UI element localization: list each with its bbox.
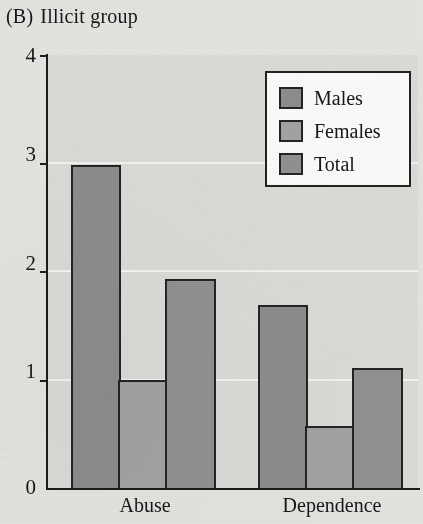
chart-legend: Males Females Total <box>265 71 411 187</box>
legend-swatch-total-icon <box>279 153 303 175</box>
y-tick-label-0: 0 <box>0 477 36 498</box>
y-tick-label-3: 3 <box>0 144 36 165</box>
bar-dependence-females[interactable] <box>305 426 355 488</box>
legend-item-total[interactable]: Total <box>279 147 409 180</box>
legend-swatch-females-icon <box>279 120 303 142</box>
y-tick-label-1: 1 <box>0 361 36 382</box>
panel-label: (B) <box>6 5 33 27</box>
y-tick-label-4: 4 <box>0 45 36 66</box>
x-tick-label-dependence: Dependence <box>262 494 402 516</box>
legend-swatch-males-icon <box>279 87 303 109</box>
x-tick-label-abuse: Abuse <box>95 494 195 516</box>
bar-abuse-females[interactable] <box>118 380 168 488</box>
bar-abuse-males[interactable] <box>71 165 121 488</box>
bar-dependence-total[interactable] <box>352 368 403 488</box>
y-axis-line <box>46 54 48 490</box>
legend-item-females[interactable]: Females <box>279 114 409 147</box>
bar-abuse-total[interactable] <box>165 279 216 488</box>
panel-title-text: Illicit group <box>40 5 138 27</box>
figure-panel-b: (B)Illicit group 4 3 2 1 0 Males Females <box>0 0 423 524</box>
legend-label-total: Total <box>314 154 355 174</box>
x-axis-line <box>46 488 420 490</box>
page-title: (B)Illicit group <box>6 4 138 28</box>
legend-label-females: Females <box>314 121 381 141</box>
legend-label-males: Males <box>314 88 363 108</box>
y-tick-label-2: 2 <box>0 253 36 274</box>
bar-dependence-males[interactable] <box>258 305 308 488</box>
legend-item-males[interactable]: Males <box>279 81 409 114</box>
